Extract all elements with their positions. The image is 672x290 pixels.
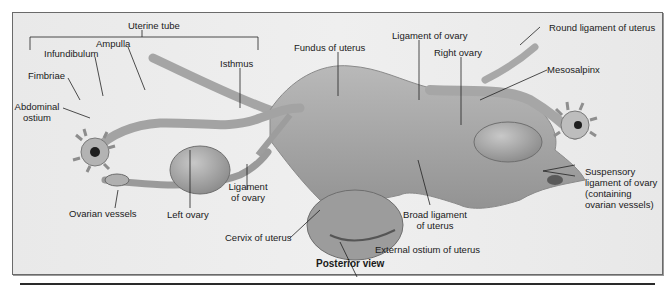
right-ovary	[474, 122, 542, 162]
label-fundus-of-uterus: Fundus of uterus	[294, 42, 365, 53]
label-uterine-tube: Uterine tube	[128, 20, 180, 31]
label-round-ligament-of-uterus: Round ligament of uterus	[549, 22, 655, 33]
label-mesosalpinx: Mesosalpinx	[547, 64, 600, 75]
bottom-rule	[20, 283, 655, 285]
label-left-ovary: Left ovary	[167, 209, 209, 220]
left-ovary	[170, 146, 230, 194]
round-ligament-right	[485, 47, 535, 80]
label-abdominal-ostium: Abdominal ostium	[12, 101, 62, 123]
label-fimbriae: Fimbriae	[28, 70, 65, 81]
label-ligament-of-ovary-bottom: Ligament of ovary	[228, 181, 268, 203]
label-right-ovary: Right ovary	[434, 47, 482, 58]
label-ovarian-vessels: Ovarian vessels	[69, 208, 137, 219]
view-caption: Posterior view	[316, 258, 384, 269]
label-broad-ligament: Broad ligament of uterus	[400, 209, 470, 231]
label-suspensory-ligament: Suspensory ligament of ovary (containing…	[585, 166, 657, 210]
label-cervix-of-uterus: Cervix of uterus	[225, 232, 292, 243]
label-isthmus: Isthmus	[220, 58, 253, 69]
label-external-ostium: External ostium of uterus	[375, 244, 480, 255]
label-infundibulum: Infundibulum	[44, 48, 98, 59]
label-ligament-of-ovary-top: Ligament of ovary	[392, 30, 468, 41]
round-ligament-left	[153, 58, 275, 112]
label-ampulla: Ampulla	[96, 38, 130, 49]
